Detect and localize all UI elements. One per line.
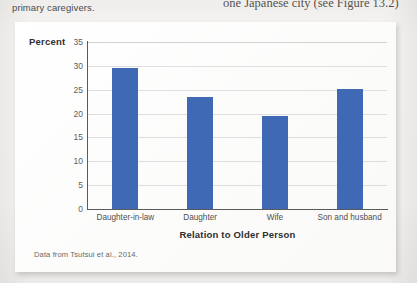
x-tick-label: Daughter [183,213,217,222]
x-tick-label: Wife [267,213,283,222]
gridline [88,66,387,67]
y-tick-label: 10 [61,156,83,166]
y-axis-tick-labels: 05101520253035 [59,42,83,209]
y-tick-label: 20 [61,109,83,119]
y-tick-label: 30 [61,61,83,71]
x-axis-tick-labels: Daughter-in-lawDaughterWifeSon and husba… [88,213,387,227]
y-tick-label: 15 [61,132,83,142]
y-tick-label: 5 [61,180,83,190]
x-axis-line [87,209,388,210]
body-text-right-column: one Japanese city (see Figure 13.2) [223,0,399,11]
plot-area [88,42,387,209]
x-tick-label: Daughter-in-law [96,213,154,222]
gridline [88,42,387,43]
bar[interactable] [187,97,213,209]
figure-panel: Percent 05101520253035 Daughter-in-lawDa… [15,22,396,272]
body-text-left-column: primary caregivers. [12,2,95,13]
bar-chart: Percent 05101520253035 Daughter-in-lawDa… [15,22,396,272]
x-tick-label: Son and husband [318,213,382,222]
x-axis-title: Relation to Older Person [88,229,387,240]
y-tick-label: 35 [61,37,83,47]
bar[interactable] [112,68,138,209]
y-tick-label: 0 [61,204,83,214]
bar[interactable] [262,116,288,209]
bar[interactable] [337,89,363,209]
y-tick-label: 25 [61,85,83,95]
source-note: Data from Tsutsui et al., 2014. [34,250,138,259]
